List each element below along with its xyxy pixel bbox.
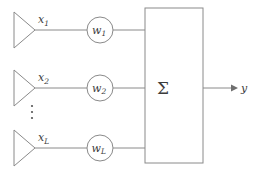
input-branch-1: x1 w1 [14,12,145,48]
ellipsis-dot [31,117,33,119]
right-arrow-icon [231,85,238,92]
input-label-L: xL [38,131,49,146]
ellipsis-dot [31,105,33,107]
input-branch-L: xL wL [14,130,145,166]
input-triangle-2 [14,70,35,106]
sigma-symbol: Σ [157,78,169,98]
summation-rect [145,8,203,163]
linear-combiner-diagram: x1 w1 x2 w2 [0,0,256,171]
input-label-1: x1 [38,13,49,28]
diagram-canvas: x1 w1 x2 w2 [0,0,256,171]
input-triangle-L [14,130,35,166]
input-triangle-1 [14,12,35,48]
ellipsis-dot [31,111,33,113]
input-label-2: x2 [38,71,49,86]
output-branch: y [203,82,248,95]
input-branch-2: x2 w2 [14,70,145,106]
vertical-ellipsis [31,105,33,119]
output-label: y [240,82,248,95]
summation-block: Σ [145,8,203,163]
